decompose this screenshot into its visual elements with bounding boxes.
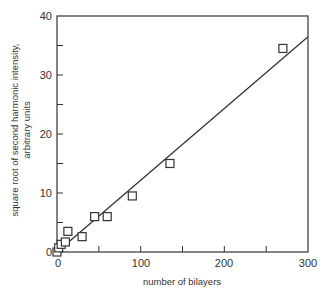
data-point-marker — [166, 160, 174, 168]
y-tick-label: 20 — [40, 128, 52, 140]
data-point-marker — [91, 213, 99, 221]
data-point-marker — [64, 227, 72, 235]
x-axis-label: number of bilayers — [143, 276, 221, 287]
data-point-marker — [103, 213, 111, 221]
y-axis-label-line1: square root of second harmonic intensity… — [9, 43, 20, 216]
scatter-chart: 0 10 20 30 40 0 100 200 300 number of bi… — [0, 0, 325, 292]
y-tick-label: 0 — [46, 246, 52, 258]
axis-ticks — [57, 46, 266, 253]
y-tick-label: 30 — [40, 69, 52, 81]
y-tick-label: 10 — [40, 187, 52, 199]
data-point-marker — [61, 238, 69, 246]
data-point-marker — [279, 44, 287, 52]
x-tick-label: 100 — [132, 257, 150, 269]
y-tick-label: 40 — [40, 10, 52, 22]
data-point-marker — [78, 233, 86, 241]
y-axis-label-line2: arbitrary units — [21, 101, 32, 159]
data-points — [53, 44, 287, 256]
x-tick-label: 200 — [215, 257, 233, 269]
data-point-marker — [128, 192, 136, 200]
x-tick-label: 0 — [55, 257, 61, 269]
x-tick-label: 300 — [299, 257, 317, 269]
